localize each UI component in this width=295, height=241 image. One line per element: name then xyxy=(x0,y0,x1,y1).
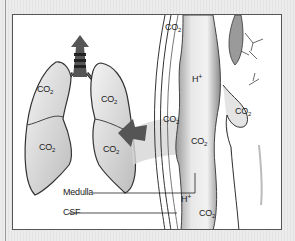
medulla-label: Medulla xyxy=(63,188,93,197)
co2-label: CO2 xyxy=(199,209,215,219)
margin-rule xyxy=(5,0,6,241)
h-ion-label: H+ xyxy=(192,73,202,84)
h-ion-label: H+ xyxy=(181,193,191,204)
co2-label: CO2 xyxy=(165,23,181,33)
co2-label: CO2 xyxy=(191,137,207,147)
illustration-panel: CO2 CO2 CO2 CO2 CO2 CO2 CO2 CO2 CO2 H+ H… xyxy=(12,14,282,230)
co2-label: CO2 xyxy=(37,85,53,95)
co2-label: CO2 xyxy=(103,145,119,155)
csf-label: CSF xyxy=(63,208,80,217)
left-lung xyxy=(25,62,71,195)
airway-structures xyxy=(223,15,263,230)
co2-label: CO2 xyxy=(235,107,251,117)
co2-label: CO2 xyxy=(39,143,55,153)
cropped-caption-strip xyxy=(0,0,295,10)
co2-label: CO2 xyxy=(101,95,117,105)
respiration-illustration xyxy=(13,15,282,230)
co2-label: CO2 xyxy=(163,115,179,125)
